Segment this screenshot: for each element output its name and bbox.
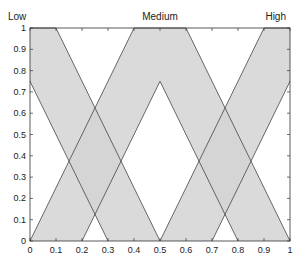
y-tick-label: 0.7 [13, 87, 26, 97]
x-tick-label: 0.2 [76, 245, 89, 255]
x-tick-label: 0.8 [232, 245, 245, 255]
y-tick-label: 1 [21, 23, 26, 33]
x-tick-label: 0.6 [180, 245, 193, 255]
y-tick-label: 0.5 [13, 130, 26, 140]
x-tick-label: 0 [27, 245, 32, 255]
x-tick-label: 0.9 [258, 245, 271, 255]
x-tick-label: 1 [287, 245, 292, 255]
set-label-medium: Medium [142, 11, 178, 22]
y-tick-label: 0 [21, 236, 26, 246]
y-tick-label: 0.3 [13, 172, 26, 182]
x-tick-label: 0.3 [102, 245, 115, 255]
y-tick-label: 0.9 [13, 44, 26, 54]
x-tick-label: 0.4 [128, 245, 141, 255]
membership-function-chart: 00.10.20.30.40.50.60.70.80.9100.10.20.30… [0, 0, 304, 261]
y-tick-label: 0.2 [13, 193, 26, 203]
x-tick-label: 0.5 [154, 245, 167, 255]
fuzzy-set-bands [30, 28, 290, 241]
y-tick-label: 0.8 [13, 66, 26, 76]
y-tick-label: 0.4 [13, 151, 26, 161]
set-label-low: Low [8, 11, 27, 22]
fuzzy-set-labels: LowMediumHigh [8, 11, 286, 22]
y-tick-label: 0.1 [13, 215, 26, 225]
set-label-high: High [265, 11, 286, 22]
x-tick-label: 0.1 [50, 245, 63, 255]
x-tick-label: 0.7 [206, 245, 219, 255]
y-tick-label: 0.6 [13, 108, 26, 118]
